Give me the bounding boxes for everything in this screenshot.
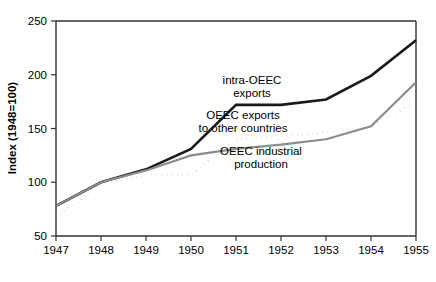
x-tick-label: 1954 xyxy=(358,244,384,256)
x-tick-label: 1950 xyxy=(178,244,204,256)
annotation-line: exports xyxy=(233,87,271,99)
y-tick-label: 150 xyxy=(28,123,47,135)
y-tick-label: 200 xyxy=(28,69,47,81)
chart-figure: 50100150200250 1947194819491950195119521… xyxy=(0,0,436,282)
series-annotations: intra-OEECexportsOEEC exportsto other co… xyxy=(199,74,302,170)
x-tick-label: 1948 xyxy=(88,244,114,256)
y-axis-ticks: 50100150200250 xyxy=(28,15,56,242)
y-tick-label: 250 xyxy=(28,15,47,27)
x-tick-label: 1951 xyxy=(223,244,249,256)
x-tick-label: 1949 xyxy=(133,244,159,256)
annotation-line: to other countries xyxy=(199,122,288,134)
annotation-oeec-exports-other-countries: OEEC exportsto other countries xyxy=(199,109,288,134)
annotation-line: OEEC industrial xyxy=(220,145,302,157)
y-axis-title: Index (1948=100) xyxy=(6,82,18,175)
annotation-line: intra-OEEC xyxy=(223,74,282,86)
y-tick-label: 100 xyxy=(28,176,47,188)
annotation-oeec-industrial-production: OEEC industrialproduction xyxy=(220,145,302,170)
annotation-intra-oeec-exports: intra-OEECexports xyxy=(223,74,282,99)
annotation-line: production xyxy=(234,158,288,170)
x-axis-ticks: 194719481949195019511952195319541955 xyxy=(43,236,429,256)
x-tick-label: 1947 xyxy=(43,244,69,256)
line-chart: 50100150200250 1947194819491950195119521… xyxy=(0,0,436,282)
x-tick-label: 1955 xyxy=(403,244,429,256)
x-tick-label: 1952 xyxy=(268,244,294,256)
y-tick-label: 50 xyxy=(34,230,47,242)
x-tick-label: 1953 xyxy=(313,244,339,256)
annotation-line: OEEC exports xyxy=(206,109,280,121)
